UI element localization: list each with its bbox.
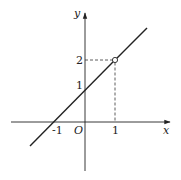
origin-label: O: [74, 124, 83, 137]
x-tick-label-1: 1: [112, 124, 119, 137]
x-axis-label: x: [163, 124, 170, 137]
function-line-lower: [30, 62, 113, 146]
open-point: [112, 57, 117, 62]
function-line-upper: [117, 28, 147, 58]
y-tick-label-2: 2: [76, 54, 83, 67]
x-tick-label-neg1: -1: [52, 124, 63, 137]
y-tick-label-1: 1: [76, 79, 83, 92]
function-graph: y x O -1 1 1 2: [0, 0, 181, 180]
y-axis-label: y: [73, 7, 81, 20]
